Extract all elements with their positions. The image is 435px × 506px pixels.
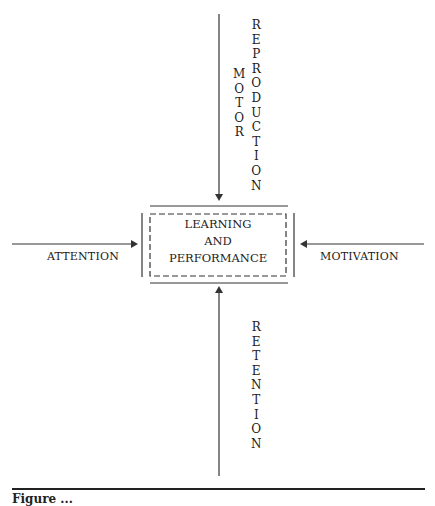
- vertical-letter: I: [254, 149, 259, 164]
- vertical-letter: E: [252, 33, 261, 48]
- vertical-letter: R: [235, 125, 244, 140]
- vertical-letter: U: [251, 106, 261, 121]
- vertical-letter: O: [251, 422, 261, 437]
- attention-label: ATTENTION: [47, 250, 119, 263]
- vertical-letter: T: [252, 135, 260, 150]
- vertical-letter: O: [251, 164, 261, 179]
- center-line-1: LEARNING: [150, 216, 286, 233]
- retention-label: RETENTION: [251, 320, 262, 451]
- vertical-letter: T: [252, 393, 260, 408]
- vertical-letter: O: [251, 76, 261, 91]
- vertical-letter: O: [234, 111, 244, 126]
- vertical-letter: N: [251, 378, 262, 393]
- vertical-letter: I: [254, 408, 259, 423]
- vertical-letter: N: [251, 179, 262, 194]
- reproduction-label: REPRODUCTION: [251, 18, 262, 193]
- learning-performance-box: LEARNING AND PERFORMANCE: [150, 216, 286, 267]
- vertical-letter: R: [252, 320, 261, 335]
- vertical-letter: C: [252, 120, 261, 135]
- vertical-letter: T: [235, 96, 243, 111]
- center-line-3: PERFORMANCE: [150, 250, 286, 267]
- figure-caption: Figure ...: [12, 492, 73, 506]
- motor-label: MOTOR: [233, 67, 245, 140]
- vertical-letter: R: [252, 18, 261, 33]
- vertical-letter: E: [252, 335, 261, 350]
- vertical-letter: P: [252, 47, 260, 62]
- vertical-letter: E: [252, 364, 261, 379]
- vertical-letter: D: [251, 91, 261, 106]
- center-line-2: AND: [150, 233, 286, 250]
- motivation-label: MOTIVATION: [320, 250, 399, 263]
- vertical-letter: N: [251, 437, 262, 452]
- vertical-letter: M: [233, 67, 245, 82]
- vertical-letter: R: [252, 62, 261, 77]
- vertical-letter: O: [234, 82, 244, 97]
- vertical-letter: T: [252, 349, 260, 364]
